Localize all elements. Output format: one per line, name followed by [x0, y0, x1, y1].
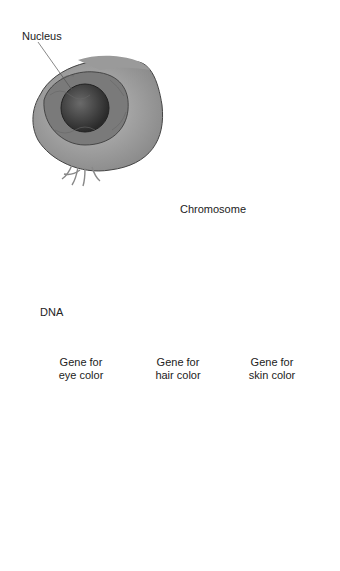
gene-eye-line2: eye color: [45, 369, 117, 382]
gene-hair-color-label: Gene for hair color: [142, 356, 214, 382]
gene-eye-line1: Gene for: [45, 356, 117, 369]
cell-illustration: [33, 42, 163, 186]
gene-skin-line1: Gene for: [236, 356, 308, 369]
chromosome-label: Chromosome: [180, 203, 246, 216]
gene-eye-color-label: Gene for eye color: [45, 356, 117, 382]
dna-label: DNA: [40, 306, 63, 319]
gene-hair-line1: Gene for: [142, 356, 214, 369]
gene-skin-line2: skin color: [236, 369, 308, 382]
nucleus-label: Nucleus: [22, 30, 62, 43]
diagram-canvas: [0, 0, 340, 571]
gene-skin-color-label: Gene for skin color: [236, 356, 308, 382]
gene-hair-line2: hair color: [142, 369, 214, 382]
